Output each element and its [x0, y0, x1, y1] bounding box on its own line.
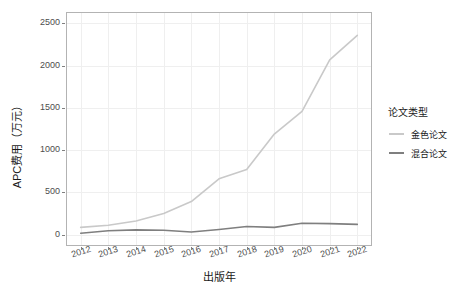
plot-panel [66, 12, 372, 246]
legend-key-line-icon [388, 147, 405, 159]
x-tick-mark [219, 247, 220, 250]
legend-item[interactable]: 金色论文 [388, 128, 472, 140]
y-axis-ticks: 05001000150020002500 [22, 0, 60, 287]
legend-item-label: 混合论文 [411, 147, 447, 160]
y-tick-label: 500 [26, 187, 60, 196]
line-chart: APC费用（万元） 05001000150020002500 201220132… [0, 0, 474, 287]
series-line [81, 223, 358, 233]
x-tick-mark [357, 247, 358, 250]
x-tick-mark [191, 247, 192, 250]
legend-item-label: 金色论文 [411, 128, 447, 141]
y-tick-label: 0 [26, 230, 60, 239]
legend-title: 论文类型 [388, 104, 472, 119]
x-tick-mark [330, 247, 331, 250]
y-tick-mark [62, 150, 65, 151]
y-tick-mark [62, 66, 65, 67]
plot-lines [67, 13, 371, 245]
y-tick-label: 1000 [26, 145, 60, 154]
y-tick-label: 2500 [26, 18, 60, 27]
x-tick-mark [274, 247, 275, 250]
y-tick-label: 1500 [26, 103, 60, 112]
x-tick-mark [108, 247, 109, 250]
legend-item[interactable]: 混合论文 [388, 147, 472, 159]
x-tick-mark [81, 247, 82, 250]
x-tick-mark [136, 247, 137, 250]
legend-items: 金色论文混合论文 [388, 128, 472, 159]
y-tick-mark [62, 108, 65, 109]
legend: 论文类型 金色论文混合论文 [388, 104, 472, 166]
y-tick-mark [62, 192, 65, 193]
y-tick-label: 2000 [26, 61, 60, 70]
x-axis-title: 出版年 [66, 268, 372, 284]
x-tick-mark [164, 247, 165, 250]
x-tick-mark [302, 247, 303, 250]
x-tick-mark [247, 247, 248, 250]
y-tick-mark [62, 235, 65, 236]
y-tick-mark [62, 23, 65, 24]
legend-key-line-icon [388, 128, 405, 140]
series-line [81, 35, 358, 227]
